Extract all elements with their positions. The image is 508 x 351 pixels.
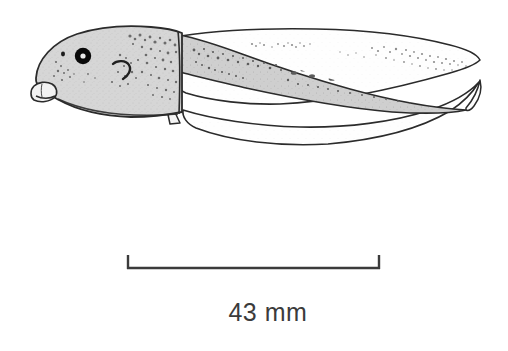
figure-root: 43 mm <box>0 0 508 351</box>
eye <box>75 48 91 64</box>
scale-bar-label-container: 43 mm <box>0 269 508 351</box>
body <box>36 26 182 117</box>
scale-bar <box>127 255 380 269</box>
nostril <box>61 52 65 57</box>
oral-disc <box>31 82 57 101</box>
scale-bar-label: 43 mm <box>228 298 307 327</box>
